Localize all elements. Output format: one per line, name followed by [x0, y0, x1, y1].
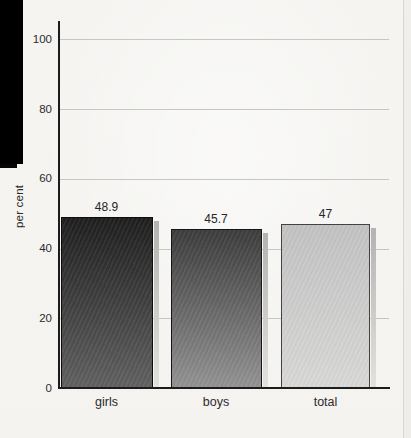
- y-tick-label-100: 100: [18, 34, 52, 46]
- bar-texture: [172, 230, 261, 387]
- bar-texture: [282, 225, 369, 387]
- bar-texture: [62, 218, 152, 387]
- gridline-100: [60, 39, 389, 40]
- bar-total: [281, 224, 370, 388]
- y-axis-title: per cent: [13, 170, 25, 228]
- y-tick-label-20: 20: [18, 313, 52, 325]
- gridline-60: [60, 179, 389, 180]
- y-tick-label-40: 40: [18, 243, 52, 255]
- bar-chart: 020406080100 per cent 48.9girls45.7boys4…: [0, 0, 411, 438]
- y-axis-line: [58, 21, 60, 388]
- x-category-label-total: total: [314, 396, 338, 409]
- y-tick-label-80: 80: [18, 104, 52, 116]
- bar-boys: [171, 229, 262, 388]
- gridline-80: [60, 109, 389, 110]
- bar-value-label-total: 47: [319, 208, 332, 220]
- scanned-page: 020406080100 per cent 48.9girls45.7boys4…: [0, 0, 411, 438]
- x-category-label-girls: girls: [95, 396, 118, 409]
- bar-value-label-girls: 48.9: [95, 201, 118, 213]
- bar-value-label-boys: 45.7: [204, 213, 227, 225]
- bar-shadow-boys: [263, 233, 268, 387]
- x-axis-line: [58, 387, 390, 389]
- bar-girls: [61, 217, 153, 388]
- bar-shadow-girls: [154, 221, 159, 387]
- y-tick-label-0: 0: [18, 383, 52, 395]
- x-category-label-boys: boys: [203, 396, 229, 409]
- bar-shadow-total: [371, 228, 376, 387]
